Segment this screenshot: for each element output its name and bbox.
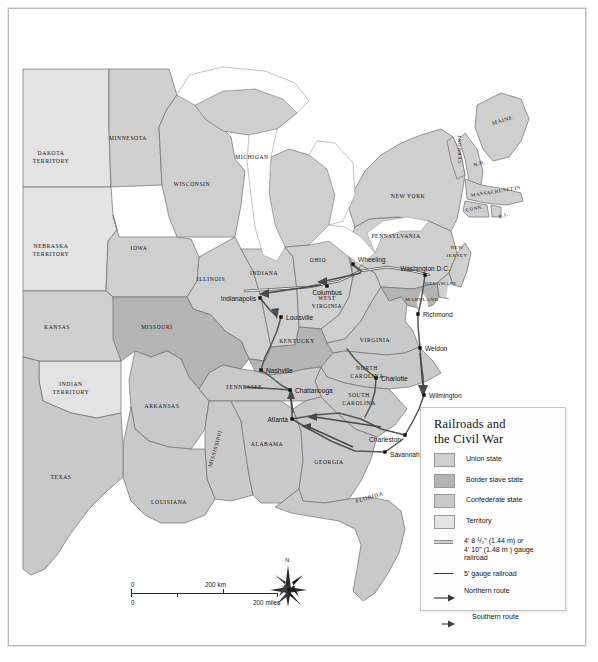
state-label-text: TEXAS — [50, 474, 71, 480]
city-dot — [351, 262, 354, 265]
city-label: Chattanooga — [295, 387, 333, 395]
state-label-kansas: KANSAS — [44, 324, 70, 330]
state-label-text: INDIAN — [59, 381, 82, 387]
state-label-text: ARKANSAS — [145, 403, 180, 409]
compass-rose: N — [267, 557, 313, 615]
city-dot — [288, 388, 291, 391]
state-kansas — [23, 291, 121, 361]
scale-bar-line — [131, 593, 277, 594]
legend-swatch-confederate — [434, 494, 455, 508]
state-label-text: CAROLINA — [342, 400, 376, 406]
state-label-text: NEW YORK — [391, 193, 425, 199]
state-label-maryland: MARYLAND — [405, 297, 438, 302]
state-dakota-territory — [23, 69, 111, 187]
legend-symbol-five-foot-railroad — [434, 568, 453, 574]
compass-star-icon — [267, 563, 313, 613]
city-label: Savannah — [390, 451, 420, 458]
legend-label-union: Union state — [466, 453, 502, 464]
state-label-text: NORTH — [356, 365, 378, 371]
scale-label-km-zero: 0 — [131, 581, 135, 588]
legend-item-gauge-railroad: 4' 8 ¹/₂" (1.44 m) or 4' 10" (1.48 m ) g… — [421, 535, 565, 563]
city-dot — [325, 284, 328, 287]
city-dot — [418, 346, 421, 349]
state-label-text: ILLINOIS — [197, 276, 225, 282]
legend-label-territory: Territory — [466, 515, 492, 526]
state-label-text: SOUTH — [348, 392, 370, 398]
state-label-delaware: DELAWARE — [425, 281, 457, 286]
state-label-text: GEORGIA — [314, 459, 343, 465]
legend-item-five-foot-railroad: 5' gauge railroad — [421, 568, 565, 579]
state-label-pennsylvania: PENNSYLVANIA — [371, 233, 420, 239]
state-label-text: MISSOURI — [141, 324, 173, 330]
state-label-kentucky: KENTUCKY — [279, 338, 315, 344]
city-indianapolis: Indianapolis — [221, 295, 262, 303]
state-label-minnesota: MINNESOTA — [109, 135, 147, 141]
legend-item-border-slave: Border slave state — [421, 474, 565, 488]
state-label-text: VIRGINIA — [312, 303, 342, 309]
city-dot — [383, 450, 386, 453]
state-label-text: TERRITORY — [53, 389, 89, 395]
legend-label-five-foot-railroad: 5' gauge railroad — [464, 568, 517, 579]
scale-tick-mi-0 — [131, 593, 132, 597]
legend-label-confederate: Confederate state — [466, 494, 522, 505]
legend-item-northern-route: Northern route — [421, 585, 565, 606]
legend-swatch-union — [434, 453, 455, 467]
state-label-text: IOWA — [130, 245, 147, 251]
city-label: Weldon — [425, 345, 448, 352]
state-label-text: MICHIGAN — [235, 154, 268, 160]
legend-swatch-border-slave — [434, 474, 455, 488]
state-label-text: DAKOTA — [38, 150, 65, 156]
city-dot — [259, 368, 262, 371]
state-label-vermont: VERMONT — [457, 135, 462, 164]
state-label-text: TENNESSEE — [226, 384, 263, 390]
state-label-text: OHIO — [310, 257, 326, 263]
city-label: Wheeling — [358, 256, 386, 264]
city-wilmington: Wilmington — [422, 392, 462, 400]
state-label-alabama: ALABAMA — [251, 441, 283, 447]
legend-symbol-gauge-railroad — [434, 535, 453, 544]
legend-label-gauge-railroad: 4' 8 ¹/₂" (1.44 m) or 4' 10" (1.48 m ) g… — [464, 535, 534, 563]
city-dot — [290, 417, 293, 420]
city-dot — [422, 393, 425, 396]
city-label: Atlanta — [267, 416, 288, 423]
state-label-michigan: MICHIGAN — [235, 154, 268, 160]
city-dot — [403, 433, 406, 436]
state-label-missouri: MISSOURI — [141, 324, 173, 330]
state-label-ohio: OHIO — [310, 257, 326, 263]
state-label-louisiana: LOUISIANA — [151, 499, 187, 505]
state-label-new-york: NEW YORK — [391, 193, 425, 199]
state-label-text: TERRITORY — [33, 158, 69, 164]
state-label-georgia: GEORGIA — [314, 459, 343, 465]
city-chattanooga: Chattanooga — [288, 387, 333, 395]
legend-label-border-slave: Border slave state — [466, 474, 523, 485]
legend-item-territory: Territory — [421, 515, 565, 529]
city-label: Charleston — [369, 436, 401, 443]
legend-item-union: Union state — [421, 453, 565, 467]
state-label-text: WISCONSIN — [174, 181, 210, 187]
state-label-wisconsin: WISCONSIN — [174, 181, 210, 187]
state-label-indiana: INDIANA — [250, 270, 278, 276]
state-label-tennessee: TENNESSEE — [226, 384, 263, 390]
state-label-illinois: ILLINOIS — [197, 276, 225, 282]
state-label-text: NEW — [450, 245, 463, 250]
legend-title: Railroads and the Civil War — [421, 408, 565, 453]
state-label-arkansas: ARKANSAS — [145, 403, 180, 409]
city-dot — [423, 273, 426, 276]
state-label-text: WEST — [318, 295, 336, 301]
state-label-text: VIRGINIA — [360, 337, 390, 343]
state-nebraska-territory — [23, 187, 117, 291]
state-label-text: KANSAS — [44, 324, 70, 330]
city-label: Wilmington — [429, 392, 462, 400]
state-label-text: TERRITORY — [33, 251, 69, 257]
scale-tick-km-200 — [223, 589, 224, 593]
legend-symbol-northern-route — [434, 585, 453, 606]
state-label-texas: TEXAS — [50, 474, 71, 480]
legend-title-line-1: Railroads and — [434, 417, 565, 432]
state-label-iowa: IOWA — [130, 245, 147, 251]
map-frame: WheelingColumbusIndianapolisLouisvilleWa… — [8, 8, 586, 646]
state-label-text: LOUISIANA — [151, 499, 187, 505]
legend-label-southern-route: Southern route — [472, 611, 519, 622]
legend-gauge-line-3: railroad — [464, 554, 534, 563]
state-label-text: NEBRASKA — [34, 243, 69, 249]
state-label-text: DELAWARE — [425, 281, 457, 286]
